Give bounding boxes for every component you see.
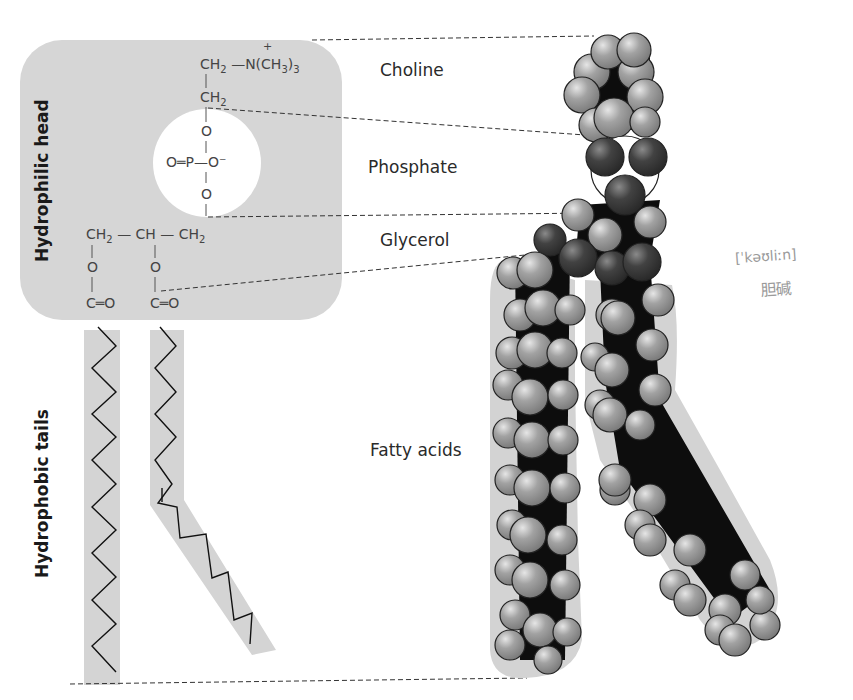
diagram-graphics: CH2 —N(CH3)3 + CH2 O O═P—O⁻ O CH2 — CH —…	[0, 0, 853, 700]
handwritten-chinese: 胆碱	[759, 275, 793, 301]
svg-text:C═O: C═O	[150, 295, 179, 311]
svg-text:O: O	[150, 259, 161, 275]
svg-text:O: O	[201, 186, 212, 202]
tail-band-saturated	[84, 330, 120, 685]
svg-text:O═P—O⁻: O═P—O⁻	[166, 154, 226, 170]
label-glycerol: Glycerol	[380, 230, 450, 250]
label-choline: Choline	[380, 60, 444, 80]
svg-text:O: O	[201, 123, 212, 139]
tail-band-unsaturated	[150, 330, 276, 655]
svg-text:O: O	[87, 259, 98, 275]
label-fatty-acids: Fatty acids	[370, 440, 462, 460]
label-hydrophobic-tails: Hydrophobic tails	[32, 409, 52, 578]
svg-text:+: +	[263, 40, 272, 53]
label-hydrophilic-head: Hydrophilic head	[32, 99, 52, 262]
phospholipid-diagram: CH2 —N(CH3)3 + CH2 O O═P—O⁻ O CH2 — CH —…	[0, 0, 853, 700]
label-phosphate: Phosphate	[368, 157, 457, 177]
svg-text:C═O: C═O	[86, 295, 115, 311]
